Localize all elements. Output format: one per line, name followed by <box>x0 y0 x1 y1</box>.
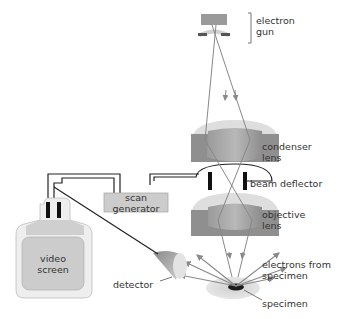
label-line: generator <box>104 203 168 214</box>
specimen <box>206 277 262 300</box>
sem-diagram: electron gun condenser lens beam deflect… <box>0 0 339 319</box>
label-condenser-lens: condenser lens <box>262 141 312 163</box>
label-line: lens <box>262 152 312 163</box>
label-specimen: specimen <box>262 298 308 309</box>
label-video-screen: video screen <box>22 253 84 275</box>
electron-gun <box>198 13 251 43</box>
label-line: screen <box>22 264 84 275</box>
label-line: condenser <box>262 141 312 152</box>
label-electron-gun: electron gun <box>256 15 295 37</box>
label-electrons-from-specimen: electrons from specimen <box>262 259 331 281</box>
label-line: specimen <box>262 270 331 281</box>
label-scan-generator: scan generator <box>104 192 168 214</box>
label-line: electrons from <box>262 259 331 270</box>
label-beam-deflector: beam deflector <box>250 178 322 189</box>
label-line: objective <box>262 209 305 220</box>
label-line: video <box>22 253 84 264</box>
label-line: scan <box>104 192 168 203</box>
video-screen <box>16 198 92 298</box>
label-objective-lens: objective lens <box>262 209 305 231</box>
label-detector: detector <box>113 279 153 290</box>
label-line: electron <box>256 15 295 26</box>
label-line: gun <box>256 26 295 37</box>
detector <box>153 251 187 281</box>
label-line: lens <box>262 220 305 231</box>
